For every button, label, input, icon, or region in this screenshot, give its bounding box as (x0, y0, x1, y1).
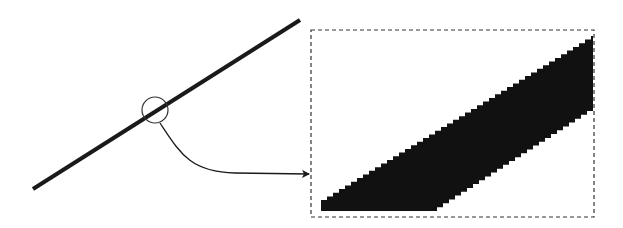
rasterization-diagram (0, 0, 623, 228)
